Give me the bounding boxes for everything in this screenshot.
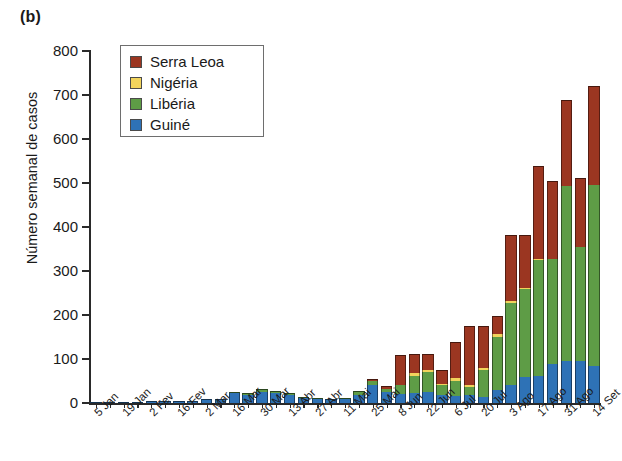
legend-swatch-icon xyxy=(130,77,142,89)
legend-item: Serra Leoa xyxy=(130,51,263,72)
legend-label: Serra Leoa xyxy=(150,54,224,69)
x-tick-label: 3 Ago xyxy=(507,389,536,418)
legend-item: Guiné xyxy=(130,114,263,135)
legend-label: Nigéria xyxy=(150,75,198,90)
legend-swatch-icon xyxy=(130,56,142,68)
figure-panel-b: (b) Número semanal de casos 010020030040… xyxy=(0,0,622,461)
legend-swatch-icon xyxy=(130,98,142,110)
x-tick-label: 5 Jan xyxy=(92,390,120,418)
legend-item: Libéria xyxy=(130,93,263,114)
x-tick-label: 25 Mai xyxy=(369,386,402,419)
legend-label: Libéria xyxy=(150,96,195,111)
x-tick-label: 16 Mar xyxy=(230,385,264,419)
x-tick-label: 22 Jun xyxy=(424,386,457,419)
x-tick-label: 31 Ago xyxy=(562,385,596,419)
x-tick-label: 27 Abr xyxy=(313,386,345,418)
x-axis-labels: 5 Jan19 Jan2 Fev16 Fev2 Mar16 Mar30 Mar1… xyxy=(0,0,622,461)
legend-swatch-icon xyxy=(130,119,142,131)
chart-legend: Serra LeoaNigériaLibériaGuiné xyxy=(120,45,264,137)
legend-label: Guiné xyxy=(150,117,190,132)
x-tick-label: 17 Ago xyxy=(535,385,569,419)
x-tick-label: 16 Fev xyxy=(175,385,208,418)
x-tick-label: 11 Mai xyxy=(341,386,373,418)
legend-item: Nigéria xyxy=(130,72,263,93)
x-tick-label: 20 Jul xyxy=(479,388,509,418)
x-tick-label: 19 Jan xyxy=(120,386,153,419)
x-tick-label: 30 Mar xyxy=(258,385,292,419)
x-tick-label: 6 Jul xyxy=(452,393,478,419)
